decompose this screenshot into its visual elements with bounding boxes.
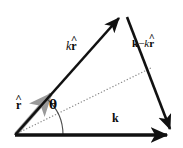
- projection-dotted-line: [18, 68, 151, 133]
- diagram-canvas: [0, 0, 183, 148]
- label-rhat: ^r: [16, 99, 21, 111]
- vector-triangle-diagram: k^r k−k^r k ^r θ: [0, 0, 183, 148]
- label-theta: θ: [49, 99, 57, 111]
- label-k-vector: k: [112, 111, 119, 125]
- label-k-rhat-hat: ^: [71, 34, 78, 45]
- label-rhat-hat: ^: [15, 93, 22, 104]
- label-k-rhat: k^r: [66, 40, 77, 52]
- k-rhat-vector: [15, 18, 119, 135]
- label-k-minus-k-rhat: k−k^r: [132, 38, 154, 49]
- label-k: k: [112, 112, 119, 124]
- label-kmkrhat-hat: ^: [149, 33, 155, 43]
